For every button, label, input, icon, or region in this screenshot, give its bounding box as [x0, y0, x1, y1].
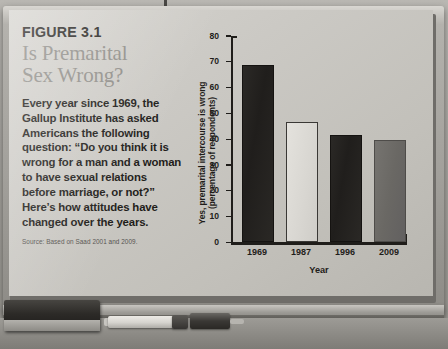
bar-chart: Yes, premarital intercourse is wrong (pe…: [185, 24, 431, 296]
bar-1987: [286, 122, 317, 243]
figure-body-text: Every year since 1969, the Gallup Instit…: [22, 96, 182, 229]
y-tick-label-50: 50: [189, 109, 219, 118]
figure-title: Is Premarital Sex Wrong?: [22, 42, 182, 87]
x-axis-title: Year: [231, 265, 407, 275]
bar-series: [231, 36, 407, 242]
whiteboard-surface: FIGURE 3.1 Is Premarital Sex Wrong? Ever…: [9, 10, 433, 296]
x-axis-tick-labels: 1969198719962009: [231, 248, 407, 260]
x-tick-label-1996: 1996: [323, 248, 367, 257]
y-tick-label-0: 0: [189, 238, 219, 247]
x-tick-label-2009: 2009: [367, 248, 411, 257]
bar-1996: [330, 135, 361, 243]
y-tick-label-10: 10: [189, 212, 219, 221]
marker-tip: [230, 319, 244, 324]
whiteboard-scene: FIGURE 3.1 Is Premarital Sex Wrong? Ever…: [0, 0, 448, 349]
y-tick-label-70: 70: [189, 57, 219, 66]
figure-title-line-1: Is Premarital: [22, 42, 182, 64]
y-tick-label-30: 30: [189, 161, 219, 170]
bar-1969: [242, 65, 273, 242]
y-tick-label-60: 60: [189, 83, 219, 92]
y-tick-label-40: 40: [189, 135, 219, 144]
bar-2009: [374, 140, 405, 243]
y-tick-label-80: 80: [189, 32, 219, 41]
x-tick-label-1987: 1987: [279, 248, 323, 257]
white-marker[interactable]: [108, 316, 174, 328]
figure-source-note: Source: Based on Saad 2001 and 2009.: [22, 238, 182, 245]
plot-area: 01020304050607080: [231, 36, 407, 244]
figure-title-line-2: Sex Wrong?: [22, 64, 182, 86]
x-axis-line: [231, 242, 407, 244]
x-tick-label-1969: 1969: [235, 248, 279, 257]
dark-marker[interactable]: [190, 313, 230, 329]
figure-number: FIGURE 3.1: [22, 24, 169, 40]
dark-marker-cap[interactable]: [172, 315, 188, 329]
eraser[interactable]: [4, 300, 100, 331]
figure-text-column: FIGURE 3.1 Is Premarital Sex Wrong? Ever…: [22, 24, 182, 252]
y-tick-label-20: 20: [189, 186, 219, 195]
